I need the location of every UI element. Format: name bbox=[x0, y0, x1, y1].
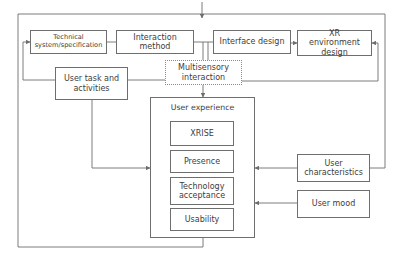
user-mood-box: User mood bbox=[297, 190, 370, 218]
xrise-box: XRISE bbox=[170, 121, 234, 146]
interaction-method-box: Interaction method bbox=[116, 30, 194, 54]
interface-design-box: Interface design bbox=[213, 30, 291, 54]
technology-acceptance-box: Technology acceptance bbox=[170, 177, 234, 205]
usability-box: Usability bbox=[170, 208, 234, 231]
technical-system-box: Technical system/specification bbox=[30, 30, 107, 54]
user-characteristics-box: User characteristics bbox=[297, 154, 370, 182]
multisensory-interaction-box: Multisensory interaction bbox=[165, 60, 242, 85]
xr-environment-design-box: XR environment design bbox=[297, 30, 372, 56]
presence-box: Presence bbox=[170, 150, 234, 173]
user-experience-title: User experience bbox=[151, 103, 254, 112]
user-task-box: User task and activities bbox=[55, 67, 128, 100]
